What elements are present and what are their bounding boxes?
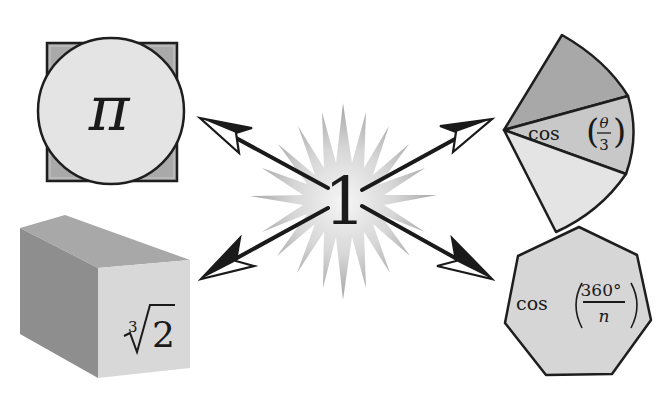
cos-func-label-2: cos bbox=[516, 292, 548, 314]
arrow-to-cos-360-n bbox=[362, 206, 492, 279]
pi-label: π bbox=[88, 72, 131, 145]
cos-func-label: cos bbox=[528, 122, 560, 144]
paren-open: ( bbox=[586, 111, 599, 151]
n-denominator: n bbox=[599, 306, 610, 326]
three-denominator: 3 bbox=[599, 136, 609, 154]
diagram-canvas: π 3 2 cos ( θ 3 ) cos 360° n 1 bbox=[0, 0, 671, 400]
node-pi: π bbox=[38, 38, 184, 184]
arrow-to-cos-theta-3 bbox=[362, 119, 492, 190]
numerator-360: 360° bbox=[581, 280, 622, 300]
paren-close: ) bbox=[613, 111, 626, 151]
node-cube-root-2: 3 2 bbox=[20, 215, 190, 378]
center-one-label: 1 bbox=[324, 163, 366, 240]
cube-front-face bbox=[98, 260, 190, 378]
center-node: 1 bbox=[250, 103, 437, 300]
node-cos-360-n: cos 360° n bbox=[505, 227, 651, 375]
theta-numerator: θ bbox=[599, 114, 608, 132]
node-cos-theta-3: cos ( θ 3 ) bbox=[504, 35, 634, 232]
radicand: 2 bbox=[152, 314, 175, 355]
